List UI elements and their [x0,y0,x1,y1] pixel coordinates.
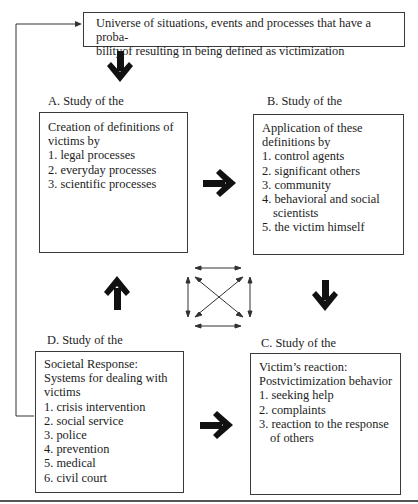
section-a-line: Creation of definitions of [48,120,187,134]
section-d-item: 3. police [44,428,183,442]
section-d-item: 4. prevention [44,442,183,456]
section-c-label: C. Study of the [261,336,336,350]
universe-text-line2: bilityof resulting in being defined as v… [96,44,404,58]
feedback-arrowhead-icon [75,21,82,27]
section-b-item: 4. behavioral and social [262,192,403,206]
section-d-item: 5. medical [44,456,183,470]
section-a-box: Creation of definitions of victims by 1.… [39,112,188,253]
section-b-item-cont: scientists [262,206,403,220]
section-d-box: Societal Response: Systems for dealing w… [35,351,184,493]
section-a-item: 1. legal processes [48,148,187,162]
section-c-item: 3. reaction to the response [259,417,400,431]
section-b-box: Application of these definitions by 1. c… [253,114,404,255]
section-d-line: Societal Response: [44,357,183,371]
arrow-right-icon [203,169,236,197]
section-b-item: 1. control agents [262,149,403,163]
section-c-line: Victim’s reaction: [259,360,400,374]
interaction-arrows-icon [186,266,252,328]
section-c-box: Victim’s reaction: Postvictimization beh… [250,353,401,495]
arrow-down-icon [312,280,338,311]
section-b-label: B. Study of the [267,94,342,108]
arrow-right-icon [200,411,233,439]
section-d-item: 2. social service [44,414,183,428]
section-b-line: definitions by [262,135,403,149]
section-c-line: Postvictimization behavior [259,374,400,388]
arrow-up-icon [104,276,130,310]
section-b-item: 3. community [262,178,403,192]
section-b-line: Application of these [262,121,403,135]
section-b-item: 2. significant others [262,164,403,178]
universe-box: Universe of situations, events and proce… [83,12,405,47]
section-a-line: victims by [48,134,187,148]
section-c-item-cont: of others [259,431,400,445]
section-a-label: A. Study of the [48,94,124,108]
section-d-line: victims [44,385,183,399]
section-a-item: 2. everyday processes [48,163,187,177]
section-d-item: 1. crisis intervention [44,400,183,414]
section-c-item: 2. complaints [259,403,400,417]
section-d-line: Systems for dealing with [44,371,183,385]
section-b-item: 5. the victim himself [262,220,403,234]
universe-text-line1: Universe of situations, events and proce… [96,16,404,44]
section-d-item: 6. civil court [44,471,183,485]
section-d-label: D. Study of the [47,333,123,347]
section-a-item: 3. scientific processes [48,177,187,191]
bottom-rule [0,500,418,502]
section-c-item: 1. seeking help [259,388,400,402]
